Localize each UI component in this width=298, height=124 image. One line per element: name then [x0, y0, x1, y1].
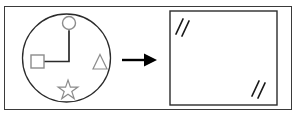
source-scene — [23, 14, 111, 102]
circle-node — [63, 17, 76, 30]
transform-arrow — [122, 54, 157, 67]
arrow-head — [144, 54, 157, 67]
diagram-canvas — [0, 0, 298, 124]
diagram-screenshot — [0, 0, 298, 124]
square-node — [31, 55, 44, 68]
result-scene — [170, 11, 277, 105]
